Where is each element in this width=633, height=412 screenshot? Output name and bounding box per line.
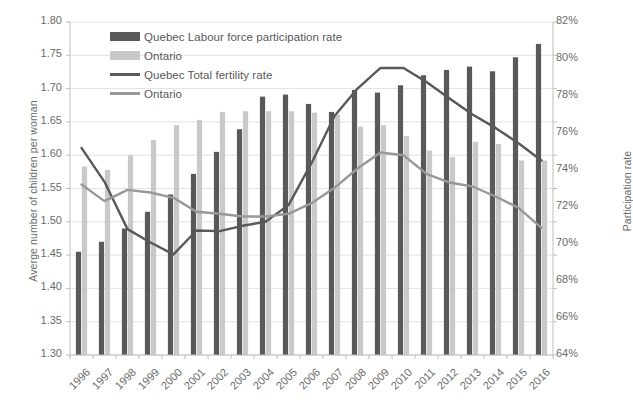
bar bbox=[243, 111, 248, 355]
bar bbox=[174, 125, 179, 355]
bar bbox=[358, 127, 363, 355]
bar bbox=[260, 97, 265, 355]
bar bbox=[352, 90, 357, 355]
bar bbox=[99, 242, 104, 355]
bar bbox=[151, 140, 156, 355]
bar bbox=[444, 70, 449, 355]
chart-legend: Quebec Labour force participation rateOn… bbox=[110, 28, 342, 102]
legend-item: Ontario bbox=[110, 47, 342, 64]
bar bbox=[381, 125, 386, 355]
bar bbox=[122, 228, 127, 355]
legend-line-swatch bbox=[110, 92, 140, 95]
bar bbox=[450, 157, 455, 355]
bar bbox=[237, 129, 242, 355]
bar bbox=[191, 174, 196, 355]
legend-item: Quebec Labour force participation rate bbox=[110, 28, 342, 45]
bar bbox=[542, 161, 547, 355]
bar bbox=[335, 115, 340, 355]
bar bbox=[536, 44, 541, 355]
bar bbox=[427, 151, 432, 355]
bar bbox=[214, 152, 219, 355]
bar bbox=[289, 111, 294, 355]
bar bbox=[404, 136, 409, 355]
legend-item: Ontario bbox=[110, 85, 342, 102]
bar bbox=[490, 71, 495, 355]
bar bbox=[519, 161, 524, 355]
bar bbox=[220, 112, 225, 355]
legend-bar-swatch bbox=[110, 32, 140, 41]
legend-item-label: Ontario bbox=[144, 50, 182, 62]
bar bbox=[197, 120, 202, 355]
legend-bar-swatch bbox=[110, 51, 140, 60]
bar bbox=[421, 75, 426, 355]
bar bbox=[283, 95, 288, 355]
bar bbox=[82, 167, 87, 355]
bar bbox=[168, 194, 173, 355]
legend-item: Quebec Total fertility rate bbox=[110, 66, 342, 83]
legend-item-label: Quebec Total fertility rate bbox=[144, 69, 272, 81]
legend-line-swatch bbox=[110, 73, 140, 76]
bar bbox=[473, 142, 478, 355]
bar bbox=[398, 85, 403, 355]
bar bbox=[312, 113, 317, 355]
bar bbox=[329, 112, 334, 355]
bar bbox=[496, 144, 501, 355]
bar bbox=[266, 111, 271, 355]
legend-item-label: Quebec Labour force participation rate bbox=[144, 31, 342, 43]
bar bbox=[375, 93, 380, 355]
bar bbox=[76, 252, 81, 355]
bar bbox=[128, 155, 133, 355]
x-tick-marks bbox=[70, 355, 553, 359]
bar bbox=[145, 212, 150, 355]
bar bbox=[306, 104, 311, 355]
legend-item-label: Ontario bbox=[144, 88, 182, 100]
